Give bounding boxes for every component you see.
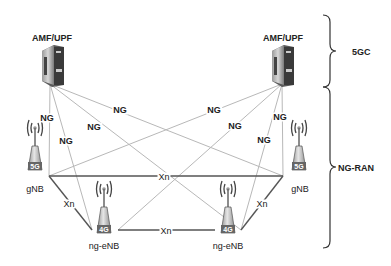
amf-upf-right-label: AMF/UPF xyxy=(263,34,303,43)
region-5gc-label: 5GC xyxy=(352,48,371,57)
ng-link-label: NG xyxy=(58,137,74,146)
xn-link-label: Xn xyxy=(159,227,172,236)
xn-link-label: Xn xyxy=(255,200,268,209)
ngenb-left-label: ng-eNB xyxy=(89,242,120,251)
ng-links xyxy=(49,84,283,230)
ngenb-right-label: ng-eNB xyxy=(213,242,244,251)
amf-upf-left-label: AMF/UPF xyxy=(32,34,72,43)
ng-link-label: NG xyxy=(39,114,55,123)
gnb-right-badge: 5G xyxy=(294,163,303,170)
ng-link-label: NG xyxy=(256,136,272,145)
gnb-left-label: gNB xyxy=(26,185,44,194)
brace-5gc-icon xyxy=(323,15,336,87)
ngenb-left-badge: 4G xyxy=(99,226,108,233)
ng-link-label: NG xyxy=(206,106,222,115)
ng-link-label: NG xyxy=(112,106,128,115)
xn-link-label: Xn xyxy=(157,173,170,182)
ng-link-label: NG xyxy=(227,122,243,131)
ngenb-right-badge: 4G xyxy=(223,226,232,233)
ng-link-label: NG xyxy=(86,123,102,132)
gnb-left-badge: 5G xyxy=(30,163,39,170)
region-ng-ran-label: NG-RAN xyxy=(338,164,374,173)
xn-link-label: Xn xyxy=(62,200,75,209)
brace-ng-ran-icon xyxy=(323,87,336,248)
server-icon xyxy=(272,45,294,87)
ng-link-label: NG xyxy=(272,113,288,122)
gnb-right-label: gNB xyxy=(291,185,309,194)
server-icon xyxy=(42,45,64,87)
